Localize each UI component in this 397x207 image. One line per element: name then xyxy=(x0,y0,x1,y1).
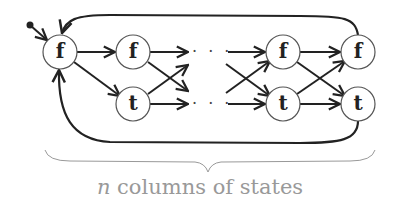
svg-text:t: t xyxy=(128,91,138,115)
state-node-f-n: f xyxy=(341,35,375,69)
svg-text:f: f xyxy=(129,39,139,63)
ellipsis-bottom: · · · xyxy=(192,94,232,113)
svg-text:f: f xyxy=(279,39,289,63)
underbrace xyxy=(45,150,375,172)
edge-f0-t1 xyxy=(74,62,120,96)
state-diagram: · · · · · · f f t f t f t n columns of s… xyxy=(0,0,397,207)
svg-text:t: t xyxy=(278,91,288,115)
edge-dots-top-tn1 xyxy=(226,64,270,96)
state-node-f0: f xyxy=(43,35,77,69)
svg-text:t: t xyxy=(353,91,363,115)
caption-text: columns of states xyxy=(110,175,303,199)
state-node-f-n-minus-1: f xyxy=(266,35,300,69)
ellipsis-top: · · · xyxy=(192,42,232,61)
state-node-t-n: t xyxy=(341,87,375,121)
svg-text:f: f xyxy=(56,39,66,63)
edge-dots-bottom-fn1 xyxy=(226,61,270,93)
loop-edge-top xyxy=(62,15,358,35)
state-node-t-n-minus-1: t xyxy=(266,87,300,121)
svg-text:f: f xyxy=(354,39,364,63)
brace-caption: n columns of states xyxy=(97,175,303,199)
edge-t1-dots-top xyxy=(148,65,188,94)
state-node-t1: t xyxy=(116,87,150,121)
state-node-f1: f xyxy=(116,35,150,69)
start-edge xyxy=(31,26,47,40)
caption-variable: n xyxy=(97,175,111,199)
edge-f1-dots-bottom xyxy=(148,62,188,91)
